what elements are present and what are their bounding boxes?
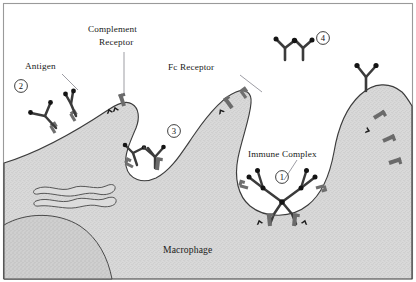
antigen-dot [304,168,309,173]
label-macrophage: Macrophage [163,244,212,255]
antigen-dot [247,175,252,180]
antigen-dot [261,186,266,191]
label-immune-complex: Immune Complex [248,149,317,159]
antigen-bridge [292,38,297,43]
label-antigen: Antigen [25,61,56,71]
antigen-dot [28,110,33,115]
callout-1-label: 1 [280,172,284,182]
antigen-dot [299,186,304,191]
antigen-dot [313,175,318,180]
antigen-dot [48,100,53,105]
label-fc-receptor: Fc Receptor [168,62,214,72]
label-complement-receptor-line1: Complement [88,24,137,34]
label-complement-receptor-line2: Receptor [99,37,133,47]
callout-4-label: 4 [321,33,326,43]
antigen-dot [63,92,68,97]
antigen-hub [279,199,285,205]
callout-3-label: 3 [172,126,176,136]
antigen-dot [255,168,260,173]
immunology-diagram: Antigen Complement Receptor Fc Receptor … [0,0,416,282]
antigen-dot [71,89,76,94]
callout-2-label: 2 [19,81,23,91]
